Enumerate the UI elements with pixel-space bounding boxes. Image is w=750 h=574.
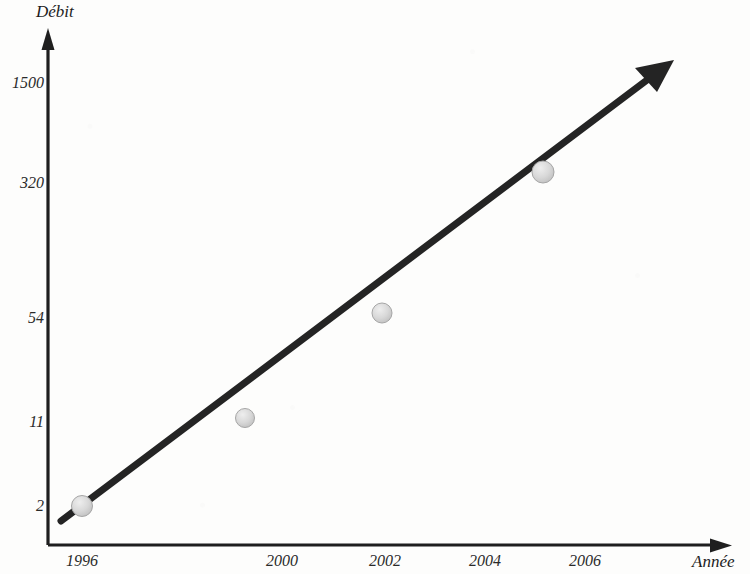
y-axis <box>42 28 55 545</box>
x-tick-label-1996: 1996 <box>52 552 112 570</box>
y-tick-label-1500: 1500 <box>0 74 44 92</box>
x-tick-label-2006: 2006 <box>555 552 615 570</box>
y-tick-label-2: 2 <box>0 497 44 515</box>
x-tick-label-2000: 2000 <box>252 552 312 570</box>
chart-plot-area <box>0 0 750 574</box>
data-point <box>72 496 93 517</box>
y-axis-title: Débit <box>36 2 74 22</box>
data-point <box>236 409 255 428</box>
x-tick-label-2002: 2002 <box>355 552 415 570</box>
y-tick-label-54: 54 <box>0 309 44 327</box>
x-axis-title: Année <box>692 552 734 572</box>
x-axis <box>48 539 732 553</box>
trend-line-arrow <box>61 60 674 521</box>
y-tick-label-11: 11 <box>0 413 44 431</box>
data-point <box>532 161 554 183</box>
data-point <box>372 303 392 323</box>
data-markers <box>72 161 555 517</box>
y-tick-label-320: 320 <box>0 174 44 192</box>
x-tick-label-2004: 2004 <box>455 552 515 570</box>
chart-canvas: Débit Année 1500 320 54 11 2 1996 2000 2… <box>0 0 750 574</box>
